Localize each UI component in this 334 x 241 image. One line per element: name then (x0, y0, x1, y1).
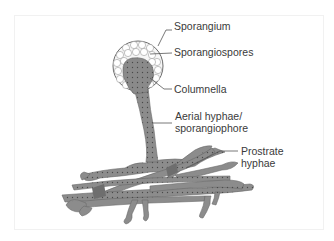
label-prostrate-line2: hyphae (241, 157, 284, 169)
label-aerial-hyphae: Aerial hyphae/ sporangiophore (175, 110, 248, 134)
sporangium-icon (113, 41, 163, 94)
label-prostrate-hyphae: Prostrate hyphae (241, 145, 284, 169)
label-columnella: Columnella (174, 83, 227, 95)
label-sporangium: Sporangium (174, 20, 231, 32)
label-aerial-line1: Aerial hyphae/ (175, 110, 248, 122)
prostrate-hyphae-icon (62, 146, 254, 224)
label-aerial-line2: sporangiophore (175, 122, 248, 134)
label-sporangiospores: Sporangiospores (174, 46, 253, 58)
fungus-illustration (0, 0, 334, 241)
sporangiophore-icon (134, 88, 158, 162)
label-prostrate-line1: Prostrate (241, 145, 284, 157)
